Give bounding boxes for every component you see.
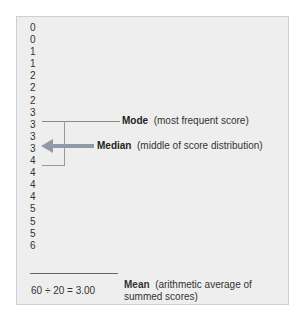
score-item: 4 <box>30 155 36 167</box>
score-item: 4 <box>30 191 36 203</box>
score-item: 4 <box>30 167 36 179</box>
mode-term: Mode <box>122 115 148 126</box>
median-label: Median (middle of score distribution) <box>97 140 263 151</box>
score-list: 0 0 1 1 2 2 2 3 3 3 3 4 4 4 4 5 5 5 6 <box>30 22 36 252</box>
score-item: 3 <box>30 107 36 119</box>
score-item: 2 <box>30 82 36 94</box>
diagram-panel <box>16 16 289 305</box>
mode-description: (most frequent score) <box>154 115 249 126</box>
median-term: Median <box>97 140 131 151</box>
mean-term: Mean <box>124 279 150 290</box>
score-item: 3 <box>30 143 36 155</box>
mode-pointer-line <box>42 121 120 122</box>
score-item: 2 <box>30 70 36 82</box>
score-item: 6 <box>30 240 36 252</box>
score-item: 3 <box>30 119 36 131</box>
score-item: 1 <box>30 58 36 70</box>
score-item: 5 <box>30 216 36 228</box>
mean-label: Mean (arithmetic average of summed score… <box>124 279 264 303</box>
mode-label: Mode (most frequent score) <box>122 115 249 126</box>
mode-bracket-bottom <box>42 165 65 166</box>
sum-divider <box>30 273 118 274</box>
score-item: 5 <box>30 228 36 240</box>
score-item: 0 <box>30 34 36 46</box>
mean-formula: 60 ÷ 20 = 3.00 <box>31 285 95 296</box>
mode-bracket-vertical <box>64 121 65 165</box>
score-item: 1 <box>30 46 36 58</box>
score-item: 4 <box>30 179 36 191</box>
score-item: 3 <box>30 131 36 143</box>
median-arrow-shaft <box>52 144 94 148</box>
median-description: (middle of score distribution) <box>137 140 263 151</box>
score-item: 2 <box>30 95 36 107</box>
score-item: 0 <box>30 22 36 34</box>
score-item: 5 <box>30 203 36 215</box>
